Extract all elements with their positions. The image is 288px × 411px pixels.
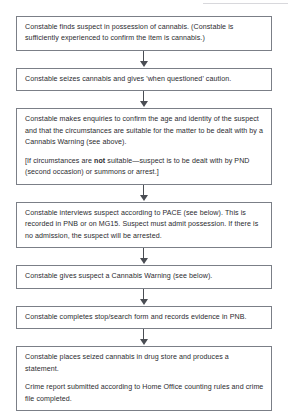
flow-arrow-3	[16, 185, 272, 202]
node-3-text-secondary: [If circumstances are not suitable—suspe…	[25, 156, 264, 179]
node-5-text: Constable gives suspect a Cannabis Warni…	[25, 271, 264, 282]
node-4-text: Constable interviews suspect according t…	[25, 208, 264, 242]
arrow-head-icon	[140, 339, 148, 345]
flowchart-node-3: Constable makes enquiries to confirm the…	[16, 108, 272, 184]
arrow-head-icon	[140, 61, 148, 67]
node-3-bracket-open: [If circumstances are	[25, 157, 94, 165]
node-3-emphasis-not: not	[94, 157, 105, 165]
flowchart-node-7: Constable places seized cannabis in drug…	[16, 346, 272, 411]
flowchart-node-4: Constable interviews suspect according t…	[16, 202, 272, 248]
flow-arrow-2	[16, 91, 272, 108]
node-2-text: Constable seizes cannabis and gives 'whe…	[25, 74, 264, 85]
flowchart-node-2: Constable seizes cannabis and gives 'whe…	[16, 68, 272, 91]
node-3-text-primary: Constable makes enquiries to confirm the…	[25, 114, 264, 148]
flow-arrow-5	[16, 289, 272, 306]
arrow-head-icon	[140, 258, 148, 264]
node-7-text-primary: Constable places seized cannabis in drug…	[25, 352, 264, 375]
flowchart-node-6: Constable completes stop/search form and…	[16, 306, 272, 329]
flow-arrow-1	[16, 51, 272, 68]
flowchart-node-stack: Constable finds suspect in possession of…	[16, 16, 272, 411]
page-edge-artifact	[203, 3, 288, 4]
arrow-head-icon	[140, 101, 148, 107]
arrow-head-icon	[140, 299, 148, 305]
flow-arrow-4	[16, 248, 272, 265]
arrow-head-icon	[140, 195, 148, 201]
node-7-text-secondary: Crime report submitted according to Home…	[25, 382, 264, 405]
node-6-text: Constable completes stop/search form and…	[25, 312, 264, 323]
node-1-text: Constable finds suspect in possession of…	[25, 22, 264, 45]
flow-arrow-6	[16, 329, 272, 346]
flowchart-node-5: Constable gives suspect a Cannabis Warni…	[16, 265, 272, 288]
flowchart-node-1: Constable finds suspect in possession of…	[16, 16, 272, 51]
